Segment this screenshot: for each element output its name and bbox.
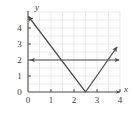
x-tick-label-2: 2 [68,96,80,105]
y-axis-label: y [35,3,39,12]
x-tick-label-3: 3 [91,96,103,105]
y-tick-label-4: 4 [14,24,25,33]
y-tick-label-2: 2 [14,56,25,65]
x-tick-label-4: 4 [114,96,126,105]
grid-lines [28,12,120,92]
y-tick-label-0: 0 [14,88,25,97]
x-tick-label-0: 0 [22,96,34,105]
graph-figure: y x 0 1 2 3 4 0 1 2 3 4 [0,0,134,117]
x-axis-label: x [124,85,128,94]
y-tick-label-3: 3 [14,40,25,49]
y-tick-label-1: 1 [14,72,25,81]
x-tick-label-1: 1 [45,96,57,105]
